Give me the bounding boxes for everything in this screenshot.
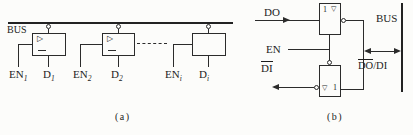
wire (341, 89, 364, 90)
wire (288, 49, 330, 50)
wire (363, 20, 364, 90)
bus-signal-plain: /DI (373, 60, 387, 71)
arrow-left-icon (272, 84, 279, 90)
data-label-2: D2 (111, 68, 123, 80)
bus-line-a (8, 22, 233, 24)
data-label-sub: i (207, 74, 209, 83)
tristate-triangle-icon: ▽ (322, 85, 327, 92)
wire (80, 44, 102, 45)
wire (208, 55, 209, 67)
tristate-buffer-box-i (192, 33, 226, 56)
enable-label-sub: 1 (24, 74, 28, 83)
enable-label-2: EN2 (73, 68, 91, 80)
enable-label-sub: i (180, 74, 182, 83)
bus-line-b (401, 3, 403, 92)
bus-label-a: BUS (7, 24, 26, 35)
circuit-figure: BUS ▷ EN1 D1 ▷ EN2 D2 ENi Di (a) DO 1 ▽ … (0, 0, 413, 135)
caption-a: (a) (115, 111, 131, 122)
bus-signal-label: DO/DI (358, 59, 387, 72)
data-label-base: D (199, 68, 207, 80)
enable-label-1: EN1 (9, 68, 27, 80)
continuation-dashes (137, 43, 167, 44)
arrow-right-icon (283, 17, 290, 23)
enable-label-base: EN (165, 68, 180, 80)
di-label-overlined: DI (261, 61, 273, 75)
tristate-symbol-icon: ▷ (107, 35, 113, 43)
receiver-gate-box (319, 65, 341, 97)
gate-one-symbol: 1 (323, 6, 327, 14)
wire (173, 44, 174, 67)
wire (329, 34, 330, 61)
tristate-triangle-icon: ▽ (331, 6, 336, 13)
caption-b: (b) (327, 111, 343, 122)
enable-label-base: EN (73, 68, 88, 80)
wire (18, 44, 19, 67)
wire (173, 44, 192, 45)
do-label: DO (264, 6, 280, 18)
wire (118, 55, 119, 67)
arrow-left-icon (364, 48, 371, 54)
enable-label-sub: 2 (88, 74, 92, 83)
wire (48, 55, 49, 67)
data-label-sub: 1 (51, 74, 55, 83)
bus-label-b: BUS (376, 12, 397, 24)
enable-label-base: EN (9, 68, 24, 80)
wire (274, 87, 314, 88)
en-label: EN (266, 43, 281, 55)
bus-signal-overlined: DO (358, 59, 373, 72)
wire (370, 51, 395, 52)
tristate-symbol-underline (108, 50, 116, 51)
data-label-base: D (43, 68, 51, 80)
tristate-symbol-icon: ▷ (37, 35, 43, 43)
data-label-i: Di (199, 68, 209, 80)
data-label-1: D1 (43, 68, 55, 80)
inversion-bubble-icon (314, 85, 319, 90)
tristate-symbol-underline (38, 50, 46, 51)
wire (346, 20, 364, 21)
data-label-base: D (111, 68, 119, 80)
data-label-sub: 2 (119, 74, 123, 83)
di-label: DI (261, 61, 273, 75)
wire (80, 44, 81, 67)
enable-label-i: ENi (165, 68, 182, 80)
gate-one-symbol: 1 (333, 84, 337, 92)
wire (18, 44, 32, 45)
arrow-right-icon (394, 48, 401, 54)
